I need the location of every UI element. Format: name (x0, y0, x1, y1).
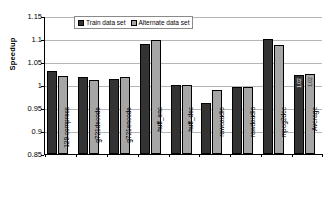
bar[interactable] (232, 87, 242, 154)
x-category-label: huff_enc (155, 107, 165, 159)
x-tick-mark (230, 154, 231, 157)
x-tick-mark (292, 154, 293, 157)
bar[interactable] (78, 77, 88, 154)
y-tick-label: 0.9 (6, 128, 42, 136)
x-category-label: huff_dec (186, 107, 196, 159)
speedup-bar-chart: Speedup 0.850.90.9511.051.11.15 1.021.02… (0, 0, 334, 211)
legend-entry-alternate: Alternate data set (131, 19, 190, 27)
bar[interactable] (109, 79, 119, 154)
legend-swatch-alternate-icon (131, 20, 137, 26)
x-tick-mark (169, 154, 170, 157)
y-tick-label: 1.15 (6, 13, 42, 21)
legend-label-train: Train data set (86, 19, 126, 27)
bar[interactable] (171, 85, 181, 154)
legend-entry-train: Train data set (78, 19, 126, 27)
x-tick-mark (45, 154, 46, 157)
x-tick-mark (138, 154, 139, 157)
x-tick-mark (199, 154, 200, 157)
y-tick-label: 1 (6, 82, 42, 90)
x-tick-mark (261, 154, 262, 157)
bar[interactable] (47, 71, 57, 154)
x-category-label: rawdaudio (248, 107, 258, 159)
y-tick-label: 0.85 (6, 151, 42, 159)
x-category-label: g721encode (124, 107, 134, 159)
legend-label-alternate: Alternate data set (139, 19, 190, 27)
chart-legend: Train data set Alternate data set (74, 16, 193, 29)
bar[interactable] (263, 39, 273, 154)
x-tick-mark (322, 154, 323, 157)
x-category-label: mpeg2dec (279, 107, 289, 159)
x-tick-mark (107, 154, 108, 157)
bar-value-label: 1.02 (307, 77, 313, 87)
bar[interactable] (201, 103, 211, 154)
bar-value-label: 1.02 (296, 78, 302, 88)
y-axis-title: Speedup (6, 24, 20, 84)
x-tick-mark (76, 154, 77, 157)
bar[interactable]: 1.02 (294, 75, 304, 154)
x-category-label: g721decode (93, 107, 103, 159)
y-tick-mark (41, 155, 44, 156)
x-category-label: Average (310, 107, 320, 159)
x-category-label: 129.compress (62, 107, 72, 159)
y-tick-label: 1.1 (6, 36, 42, 44)
legend-swatch-train-icon (78, 20, 84, 26)
bar[interactable] (140, 44, 150, 154)
y-tick-label: 1.05 (6, 59, 42, 67)
x-category-label: rawcaudio (217, 107, 227, 159)
y-tick-label: 0.95 (6, 105, 42, 113)
